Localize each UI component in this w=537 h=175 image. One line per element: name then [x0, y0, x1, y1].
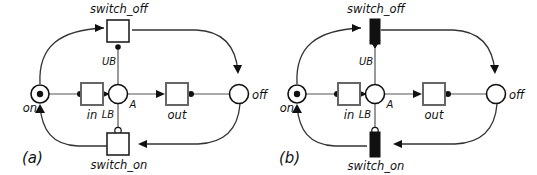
label-place-A: A: [129, 99, 137, 110]
place-b-on-token: [294, 91, 300, 97]
label-place-on: on: [23, 101, 37, 115]
place-off[interactable]: [230, 85, 249, 104]
transition-b-switch-on[interactable]: [370, 132, 380, 157]
transition-b-in[interactable]: [338, 83, 360, 105]
label-switch-on: switch_on: [91, 158, 148, 172]
figure-root: switch_off switch_on UB LB A on off in o…: [0, 0, 537, 175]
arc-switch-off-to-off: [132, 30, 238, 72]
label-b-lb: LB: [359, 109, 372, 120]
place-on-token: [37, 91, 43, 97]
transition-switch-on[interactable]: [107, 133, 129, 155]
arrowhead-on-to-switch-off: [95, 24, 104, 32]
label-transition-in: in: [87, 108, 97, 122]
arrowhead-b-switch-off-to-off: [490, 65, 499, 74]
transition-out[interactable]: [166, 83, 188, 105]
label-lb: LB: [102, 109, 115, 120]
arrowhead-A-to-out: [156, 90, 165, 98]
label-b-transition-out: out: [425, 108, 444, 122]
label-b-switch-on: switch_on: [348, 159, 405, 173]
arc-b-on-to-switch-off: [297, 28, 361, 84]
arc-b-off-to-switch-on: [395, 104, 497, 144]
label-b-place-A: A: [386, 99, 394, 110]
label-b-place-on: on: [280, 101, 294, 115]
transition-in[interactable]: [81, 83, 103, 105]
arrowhead-switch-off-to-off: [233, 65, 242, 74]
arrowhead-b-A-to-out: [413, 90, 422, 98]
arrowhead-b-off-to-switch-on: [393, 140, 402, 148]
label-b-ub: UB: [359, 56, 373, 67]
panel-b: switch_off switch_on UB LB A on off in o…: [279, 2, 526, 173]
arc-off-to-switch-on: [140, 104, 240, 144]
label-b-transition-in: in: [344, 108, 354, 122]
petri-net-figure: switch_off switch_on UB LB A on off in o…: [0, 0, 537, 175]
label-place-off: off: [252, 88, 269, 102]
place-b-A[interactable]: [366, 85, 385, 104]
transition-switch-off[interactable]: [107, 20, 129, 42]
arc-on-to-switch-off: [40, 28, 104, 84]
label-b-place-off: off: [509, 88, 526, 102]
panel-caption-b: (b): [279, 149, 300, 167]
arrowhead-off-to-switch-on: [138, 140, 147, 148]
place-b-off[interactable]: [487, 85, 506, 104]
label-switch-off: switch_off: [90, 2, 149, 16]
arc-b-switch-on-to-on: [297, 106, 367, 146]
arc-switch-on-to-on: [40, 106, 108, 146]
place-A[interactable]: [109, 85, 128, 104]
label-transition-out: out: [168, 108, 187, 122]
panel-a: switch_off switch_on UB LB A on off in o…: [22, 2, 269, 172]
arc-ub-test-dot: [115, 44, 121, 50]
arc-b-switch-off-to-off: [381, 30, 495, 72]
panel-caption-a: (a): [22, 149, 43, 167]
arrowhead-b-on-to-switch-off: [352, 24, 361, 32]
transition-b-out[interactable]: [423, 83, 445, 105]
label-ub: UB: [102, 56, 116, 67]
label-b-switch-off: switch_off: [347, 2, 406, 16]
